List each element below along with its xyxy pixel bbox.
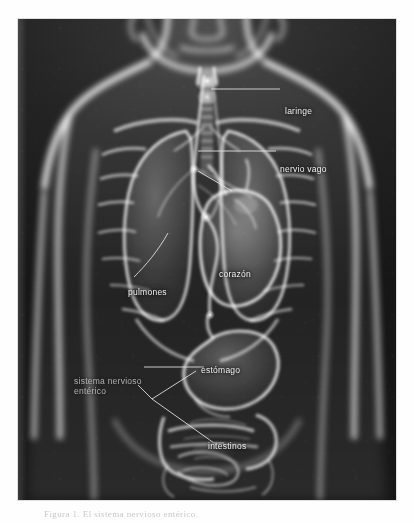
anatomy-artwork — [18, 19, 396, 500]
scanned-book-page: laringe nervio vago corazón pulmones est… — [0, 0, 414, 523]
figure-caption: Figura 1. El sistema nervioso entérico. — [44, 509, 394, 523]
anatomy-figure: laringe nervio vago corazón pulmones est… — [18, 19, 396, 500]
